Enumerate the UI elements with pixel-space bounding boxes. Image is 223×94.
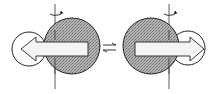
equilibrium-diagram	[0, 0, 223, 94]
equilibrium-arrows-icon	[103, 43, 116, 52]
left-state	[12, 4, 100, 89]
rotation-arrow-icon	[50, 11, 64, 15]
rotation-arrow-icon	[164, 11, 178, 15]
diagram-canvas	[0, 0, 223, 94]
right-state	[123, 4, 205, 89]
